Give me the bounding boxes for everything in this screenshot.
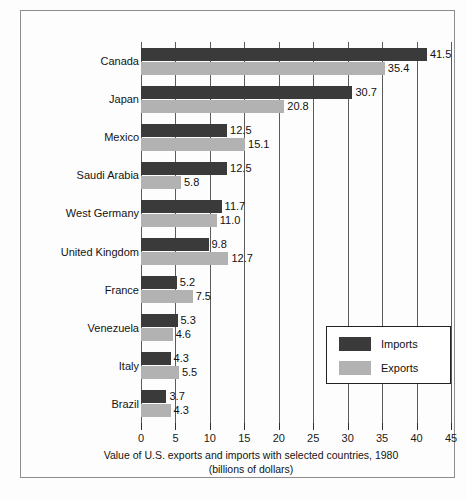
x-tick-label-30: 30 xyxy=(342,432,354,444)
bar-value-label: 9.8 xyxy=(212,238,227,251)
bar-value-label: 5.8 xyxy=(184,176,199,189)
legend-swatch-exports xyxy=(339,361,371,375)
bar-value-label: 4.3 xyxy=(174,352,189,365)
bar-imports-brazil xyxy=(141,390,166,403)
category-label-italy: Italy xyxy=(119,360,139,372)
legend-swatch-imports xyxy=(339,337,371,351)
bar-imports-italy xyxy=(141,352,171,365)
bar-value-label: 3.7 xyxy=(169,390,184,403)
chart-caption: Value of U.S. exports and imports with s… xyxy=(51,448,451,476)
category-label-japan: Japan xyxy=(109,93,139,105)
x-tick-5 xyxy=(175,423,176,430)
bar-value-label: 7.5 xyxy=(196,290,211,303)
category-axis: CanadaJapanMexicoSaudi ArabiaWest German… xyxy=(21,42,139,423)
bar-value-label: 5.2 xyxy=(180,276,195,289)
bar-imports-canada xyxy=(141,48,427,61)
bar-imports-france xyxy=(141,276,177,289)
bar-imports-mexico xyxy=(141,124,227,137)
x-tick-40 xyxy=(417,423,418,430)
x-tick-35 xyxy=(382,423,383,430)
bar-exports-brazil xyxy=(141,404,171,417)
bar-value-label: 4.6 xyxy=(176,328,191,341)
x-tick-label-20: 20 xyxy=(273,432,285,444)
x-tick-label-25: 25 xyxy=(307,432,319,444)
x-tick-label-15: 15 xyxy=(238,432,250,444)
gridline-25 xyxy=(313,42,314,423)
chart-frame: CanadaJapanMexicoSaudi ArabiaWest German… xyxy=(20,10,455,478)
bar-exports-saudi-arabia xyxy=(141,176,181,189)
x-tick-label-35: 35 xyxy=(376,432,388,444)
bar-exports-west-germany xyxy=(141,214,217,227)
x-tick-30 xyxy=(348,423,349,430)
bar-exports-mexico xyxy=(141,138,245,151)
bar-exports-japan xyxy=(141,100,284,113)
x-tick-label-5: 5 xyxy=(172,432,178,444)
category-label-west-germany: West Germany xyxy=(66,207,139,219)
category-label-mexico: Mexico xyxy=(104,131,139,143)
bar-exports-united-kingdom xyxy=(141,252,228,265)
bar-value-label: 35.4 xyxy=(388,62,409,75)
x-tick-label-40: 40 xyxy=(410,432,422,444)
caption-line-1: Value of U.S. exports and imports with s… xyxy=(51,448,451,462)
x-tick-15 xyxy=(244,423,245,430)
x-tick-label-10: 10 xyxy=(204,432,216,444)
x-tick-0 xyxy=(141,423,142,430)
bar-value-label: 15.1 xyxy=(248,138,269,151)
bar-exports-france xyxy=(141,290,193,303)
category-label-brazil: Brazil xyxy=(111,398,139,410)
bar-imports-united-kingdom xyxy=(141,238,209,251)
bar-exports-canada xyxy=(141,62,385,75)
chart-legend: ImportsExports xyxy=(326,326,451,384)
bar-value-label: 12.5 xyxy=(230,162,251,175)
category-label-canada: Canada xyxy=(100,55,139,67)
bar-value-label: 12.7 xyxy=(231,252,252,265)
category-label-venezuela: Venezuela xyxy=(88,322,139,334)
bar-value-label: 41.5 xyxy=(430,48,451,61)
bar-imports-west-germany xyxy=(141,200,222,213)
bar-exports-venezuela xyxy=(141,328,173,341)
bar-imports-saudi-arabia xyxy=(141,162,227,175)
gridline-45 xyxy=(451,42,452,423)
category-label-saudi-arabia: Saudi Arabia xyxy=(77,169,139,181)
bar-value-label: 4.3 xyxy=(174,404,189,417)
bar-value-label: 30.7 xyxy=(355,86,376,99)
caption-line-2: (billions of dollars) xyxy=(51,462,451,476)
bar-value-label: 12.5 xyxy=(230,124,251,137)
bar-exports-italy xyxy=(141,366,179,379)
bar-imports-japan xyxy=(141,86,352,99)
x-tick-25 xyxy=(313,423,314,430)
bar-value-label: 11.7 xyxy=(225,200,246,213)
x-tick-label-45: 45 xyxy=(445,432,457,444)
legend-label-imports: Imports xyxy=(381,336,418,352)
category-label-france: France xyxy=(105,284,139,296)
bar-value-label: 20.8 xyxy=(287,100,308,113)
bar-imports-venezuela xyxy=(141,314,178,327)
bar-value-label: 11.0 xyxy=(220,214,241,227)
chart-figure: CanadaJapanMexicoSaudi ArabiaWest German… xyxy=(0,0,467,500)
x-tick-45 xyxy=(451,423,452,430)
x-tick-10 xyxy=(210,423,211,430)
x-tick-20 xyxy=(279,423,280,430)
x-tick-label-0: 0 xyxy=(138,432,144,444)
bar-value-label: 5.5 xyxy=(182,366,197,379)
legend-label-exports: Exports xyxy=(381,360,418,376)
category-label-united-kingdom: United Kingdom xyxy=(61,246,139,258)
bar-value-label: 5.3 xyxy=(181,314,196,327)
